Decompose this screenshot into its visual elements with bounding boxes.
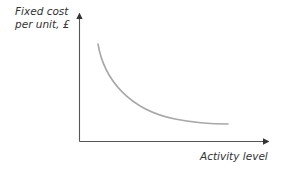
x-axis-label: Activity level (200, 150, 268, 163)
fixed-cost-curve (98, 44, 228, 124)
chart-canvas (0, 0, 308, 174)
